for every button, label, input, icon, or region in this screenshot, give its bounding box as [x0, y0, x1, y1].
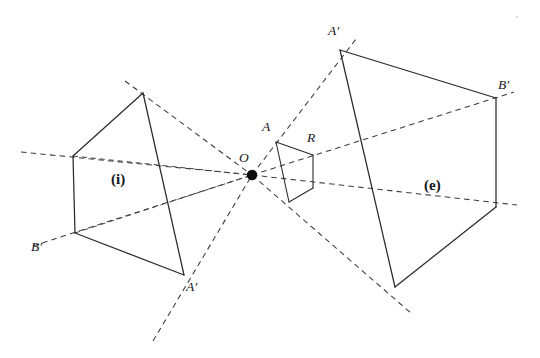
label-ref-r: R [307, 131, 315, 145]
reference-quadrilateral [276, 142, 313, 202]
label-exterior-b-prime: B′ [498, 78, 509, 92]
projection-ray-group [21, 39, 517, 341]
ref-edge-a-t [276, 142, 289, 202]
label-interior-a-prime: A′ [186, 280, 197, 294]
ray-bprime-interior [33, 175, 252, 246]
diagram-canvas [0, 0, 540, 358]
ray-aprime-interior [153, 175, 252, 341]
exterior-edge-bottom [395, 207, 496, 287]
interior-edge-apex-left [73, 93, 143, 156]
ray-upperleft-exterior [252, 92, 514, 175]
exterior-edge-aprime-bprime [340, 50, 496, 98]
ray-apex-exterior [252, 39, 356, 175]
interior-quadrilateral [73, 93, 184, 275]
label-exterior-a-prime: A′ [328, 24, 339, 38]
exterior-edge-aprime-bottom [340, 50, 395, 287]
interior-edge-apex-aprime [143, 93, 184, 275]
label-exterior-region: (e) [424, 178, 441, 193]
exterior-quadrilateral [340, 50, 496, 287]
ref-edge-s-t [289, 188, 313, 202]
label-center-o: O [239, 151, 249, 165]
center-point-o [247, 170, 257, 180]
label-interior-region: (i) [111, 172, 125, 187]
interior-edge-bottom [75, 233, 184, 275]
label-ref-a: A [262, 120, 270, 134]
label-interior-b-prime: B′ [31, 240, 42, 254]
page-speck [516, 16, 518, 18]
ray-chord-upper [73, 156, 252, 175]
interior-edge-left-vertical [73, 156, 75, 233]
projection-diagram: O A R (i) (e) A′ B′ A′ B′ [0, 0, 540, 358]
ray-aprime-exterior [252, 175, 412, 314]
